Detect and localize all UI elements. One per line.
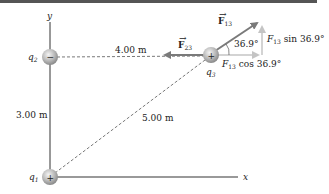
angle-arc bbox=[226, 44, 229, 55]
angle-label: 36.9° bbox=[234, 39, 259, 49]
dashed-q2-q3 bbox=[57, 56, 205, 57]
svg-text:+: + bbox=[208, 51, 216, 61]
vector-arrow-glyph: → bbox=[219, 9, 227, 19]
force-diagram: y x 4.00 m 3.00 m 5.00 m F23 → F13 → 36.… bbox=[0, 0, 329, 194]
distance-label-4m: 4.00 m bbox=[115, 45, 147, 55]
svg-text:+: + bbox=[47, 173, 55, 183]
component-sin-label: F13 sin 36.9° bbox=[266, 34, 324, 45]
svg-text:−: − bbox=[47, 52, 55, 62]
charge-q1-label: q1 bbox=[29, 172, 39, 183]
component-cos-label: F13 cos 36.9° bbox=[221, 59, 281, 70]
charge-q3: + bbox=[203, 47, 219, 63]
charge-q3-label: q3 bbox=[206, 67, 216, 78]
charge-q1: + bbox=[42, 169, 58, 185]
charge-q2: − bbox=[42, 49, 58, 65]
diagram: y x 4.00 m 3.00 m 5.00 m F23 → F13 → 36.… bbox=[0, 0, 329, 194]
charge-q2-label: q2 bbox=[28, 52, 38, 63]
x-axis-label: x bbox=[243, 172, 248, 182]
vector-arrow-glyph: → bbox=[179, 33, 187, 43]
distance-label-3m: 3.00 m bbox=[16, 110, 48, 120]
y-axis-label: y bbox=[46, 11, 53, 21]
distance-label-5m: 5.00 m bbox=[142, 113, 174, 123]
dashed-q1-q3 bbox=[55, 60, 205, 173]
